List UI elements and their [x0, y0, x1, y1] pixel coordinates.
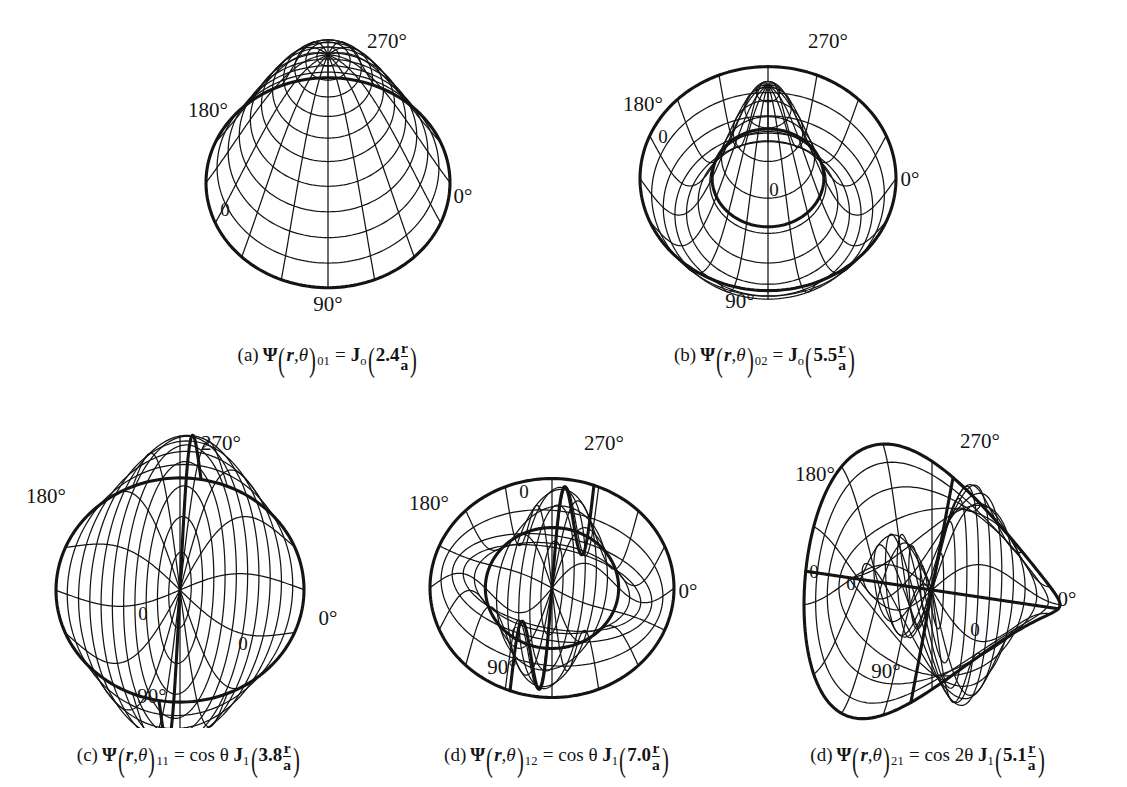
nodal-zero-label-0: 0: [220, 199, 230, 220]
panel-e-caption-label: (d): [810, 744, 832, 765]
panel-e-frac-num: r: [1028, 740, 1036, 756]
angle-label-0: 0°: [454, 184, 473, 208]
angle-label-180: 180°: [795, 462, 835, 486]
angle-label-0: 0°: [1058, 587, 1077, 611]
panel-a-caption: (a)Ψ(r,θ)01=Jo(2.4ra): [168, 340, 488, 376]
nodal-zero-label-0: 0: [809, 561, 819, 582]
panel-d-bessel-order: 1: [612, 754, 618, 768]
panel-a-subscript: 01: [317, 354, 330, 368]
angle-label-0: 0°: [901, 167, 920, 191]
nodal-zero-label-1: 0: [769, 179, 779, 200]
panel-e: 270°180°0°90°000: [762, 428, 1092, 728]
panel-c-angular-factor: cos θ: [190, 744, 229, 765]
angle-label-180: 180°: [188, 98, 228, 122]
bessel-mode-figure: 270°180°0°90°0 (a)Ψ(r,θ)01=Jo(2.4ra) 270…: [0, 0, 1127, 787]
panel-d-caption: (d)Ψ(r,θ)12=cos θ J1(7.0ra): [382, 740, 732, 776]
angle-label-180: 180°: [623, 92, 663, 116]
angle-label-180: 180°: [28, 484, 66, 508]
panel-c-subscript: 11: [156, 754, 168, 768]
panel-a-bessel-order: o: [360, 354, 366, 368]
panel-b: 270°180°0°90°00: [600, 18, 930, 318]
angle-label-90: 90°: [313, 292, 342, 316]
angle-label-90: 90°: [725, 289, 754, 313]
panel-d: 270°180°0°90°00: [392, 428, 712, 728]
panel-a-frac-den: a: [401, 357, 409, 373]
panel-a-plot: 270°180°0°90°0: [168, 18, 488, 318]
angle-label-180: 180°: [409, 491, 449, 515]
panel-b-caption-label: (b): [674, 344, 696, 365]
panel-d-subscript: 12: [525, 754, 538, 768]
panel-d-frac-den: a: [652, 757, 660, 773]
panel-e-frac-den: a: [1028, 757, 1036, 773]
panel-d-plot: 270°180°0°90°00: [392, 428, 712, 728]
panel-e-caption: (d)Ψ(r,θ)21=cos 2θ J1(5.1ra): [748, 740, 1108, 776]
panel-d-caption-label: (d): [444, 744, 466, 765]
angle-label-270: 270°: [367, 29, 407, 53]
nodal-zero-label-0: 0: [519, 481, 529, 502]
nodal-zero-label-1: 0: [511, 623, 521, 644]
panel-c: 270°180°0°90°00: [28, 428, 348, 728]
angle-label-90: 90°: [871, 659, 900, 683]
panel-c-bessel-order: 1: [243, 754, 249, 768]
panel-c-caption-label: (c): [77, 744, 98, 765]
panel-c-plot: 270°180°0°90°00: [28, 428, 348, 728]
panel-d-angular-factor: cos θ: [558, 744, 597, 765]
angle-label-270: 270°: [201, 431, 241, 455]
panel-c-frac-den: a: [283, 757, 291, 773]
panel-d-frac-num: r: [652, 740, 660, 756]
panel-b-root: 5.5: [813, 344, 837, 365]
nodal-zero-label-0: 0: [138, 603, 148, 624]
panel-a-caption-label: (a): [238, 344, 259, 365]
panel-c-caption: (c)Ψ(r,θ)11=cos θ J1(3.8ra): [14, 740, 364, 776]
panel-b-plot: 270°180°0°90°00: [600, 18, 930, 318]
angle-label-270: 270°: [960, 429, 1000, 453]
nodal-zero-label-1: 0: [238, 633, 248, 654]
panel-b-bessel-order: o: [798, 354, 804, 368]
panel-a: 270°180°0°90°0: [168, 18, 488, 318]
panel-e-plot: 270°180°0°90°000: [762, 428, 1092, 728]
nodal-zero-label-0: 0: [658, 126, 668, 147]
angle-label-0: 0°: [679, 579, 698, 603]
panel-b-frac-num: r: [838, 340, 846, 356]
panel-b-subscript: 02: [755, 354, 768, 368]
panel-d-root: 7.0: [627, 744, 651, 765]
angle-label-0: 0°: [319, 606, 338, 630]
nodal-zero-label-1: 0: [846, 573, 856, 594]
panel-e-subscript: 21: [891, 754, 904, 768]
angle-label-270: 270°: [808, 29, 848, 53]
panel-e-angular-factor: cos 2θ: [925, 744, 974, 765]
panel-c-root: 3.8: [259, 744, 283, 765]
panel-c-frac-num: r: [283, 740, 291, 756]
panel-a-frac-num: r: [401, 340, 409, 356]
nodal-zero-label-2: 0: [970, 619, 980, 640]
panel-b-caption: (b)Ψ(r,θ)02=Jo(5.5ra): [600, 340, 930, 376]
panel-e-bessel-order: 1: [988, 754, 994, 768]
panel-a-root: 2.4: [376, 344, 400, 365]
angle-label-90: 90°: [137, 684, 166, 708]
angle-label-270: 270°: [584, 431, 624, 455]
panel-b-frac-den: a: [838, 357, 846, 373]
angle-label-90: 90°: [487, 655, 516, 679]
panel-e-root: 5.1: [1003, 744, 1027, 765]
